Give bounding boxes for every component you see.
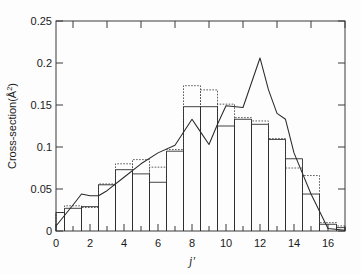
x-tick-label: 14 [288,237,300,249]
x-tick-label: 12 [254,237,266,249]
y-axis-title: Cross-section(Å2) [5,83,18,169]
y-axis-title-prefix: Cross-section( [6,98,18,169]
x-axis-ticks-top [73,21,345,28]
y-tick-label: 0.25 [31,15,52,27]
y-axis-ticks-right [338,21,345,231]
y-axis-tick-labels: 0 0.05 0.1 0.15 0.2 0.25 [31,15,52,237]
x-tick-label: 4 [121,237,127,249]
series-histogram-solid [56,107,345,231]
y-axis-ticks [56,21,63,231]
chart-canvas: 0 0.05 0.1 0.15 0.2 0.25 [0,0,361,274]
solid-histogram-outline [56,107,345,231]
y-tick-label: 0.05 [31,183,52,195]
figure-container: 0 0.05 0.1 0.15 0.2 0.25 [0,0,361,274]
x-tick-label: 8 [189,237,195,249]
y-tick-label: 0 [46,225,52,237]
x-tick-label: 0 [53,237,59,249]
x-axis-tick-labels: 0 2 4 6 8 10 12 14 16 [53,237,334,249]
x-axis-title-text: j' [187,254,195,268]
y-tick-label: 0.15 [31,99,52,111]
x-tick-label: 2 [87,237,93,249]
x-tick-label: 6 [155,237,161,249]
y-tick-label: 0.2 [37,57,52,69]
y-axis-title-suffix: ) [6,83,18,87]
y-tick-label: 0.1 [37,141,52,153]
x-tick-label: 16 [322,237,334,249]
x-tick-label: 10 [220,237,232,249]
svg-text:Cross-section(Å2): Cross-section(Å2) [5,83,18,169]
x-axis-title: j' [187,254,195,268]
